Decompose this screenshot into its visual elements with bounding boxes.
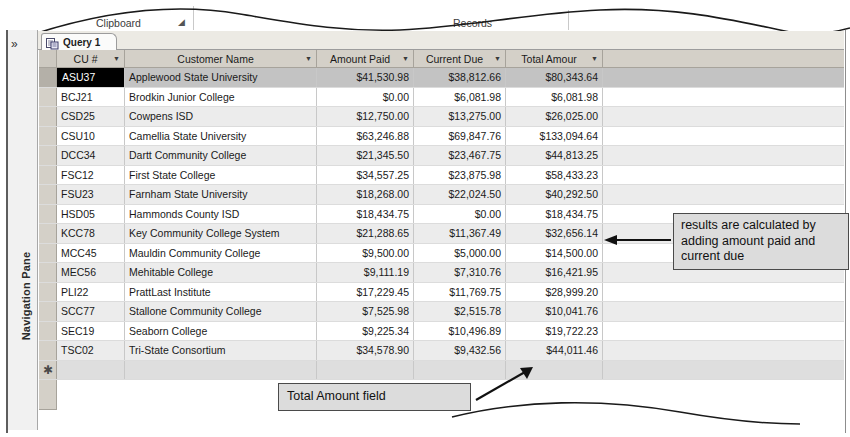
cell-due[interactable]: $69,847.76 — [414, 127, 506, 146]
cell-due[interactable]: $23,467.75 — [414, 146, 506, 165]
cell-due[interactable]: $6,081.98 — [414, 88, 506, 107]
cell-name[interactable]: Seaborn College — [125, 322, 317, 341]
cell-paid[interactable]: $34,578.90 — [317, 341, 414, 360]
cell-due[interactable]: $38,812.66 — [414, 68, 506, 87]
cell-name[interactable]: Tri-State Consortium — [125, 341, 317, 360]
row-selector[interactable] — [39, 68, 57, 87]
table-row[interactable]: PLI22PrattLast Institute$17,229.45$11,76… — [39, 283, 844, 303]
cell-paid[interactable]: $41,530.98 — [317, 68, 414, 87]
cell-cu[interactable]: FSC12 — [57, 166, 125, 185]
cell-total[interactable]: $10,041.76 — [506, 302, 603, 321]
row-selector[interactable] — [39, 224, 57, 243]
row-selector[interactable] — [39, 263, 57, 282]
cell-total[interactable]: $14,500.00 — [506, 244, 603, 263]
cell-paid[interactable]: $9,500.00 — [317, 244, 414, 263]
chevron-down-icon[interactable]: ▼ — [591, 55, 598, 62]
row-selector[interactable] — [39, 341, 57, 360]
row-selector[interactable] — [39, 127, 57, 146]
dialog-launcher-icon[interactable]: ◢ — [178, 18, 185, 27]
tab-query1[interactable]: Query 1 — [41, 33, 117, 50]
row-selector[interactable] — [39, 205, 57, 224]
cell-total[interactable]: $26,025.00 — [506, 107, 603, 126]
chevron-down-icon[interactable]: ▼ — [494, 55, 501, 62]
select-all-box[interactable] — [39, 50, 57, 67]
cell-paid[interactable]: $18,268.00 — [317, 185, 414, 204]
new-record-row[interactable]: ✱ — [39, 361, 844, 381]
column-header-cu[interactable]: CU #▼ — [57, 50, 125, 67]
cell-paid[interactable]: $9,111.19 — [317, 263, 414, 282]
row-selector[interactable] — [39, 107, 57, 126]
cell-due[interactable]: $7,310.76 — [414, 263, 506, 282]
new-record-cell-name[interactable] — [125, 361, 317, 380]
cell-total[interactable]: $58,433.23 — [506, 166, 603, 185]
cell-cu[interactable]: ASU37 — [57, 68, 125, 87]
cell-total[interactable]: $44,011.46 — [506, 341, 603, 360]
cell-paid[interactable]: $21,288.65 — [317, 224, 414, 243]
row-selector[interactable] — [39, 302, 57, 321]
cell-due[interactable]: $11,769.75 — [414, 283, 506, 302]
cell-total[interactable]: $80,343.64 — [506, 68, 603, 87]
new-record-cell-total[interactable] — [506, 361, 603, 380]
cell-cu[interactable]: FSU23 — [57, 185, 125, 204]
cell-due[interactable]: $22,024.50 — [414, 185, 506, 204]
cell-cu[interactable]: BCJ21 — [57, 88, 125, 107]
table-row[interactable]: BCJ21Brodkin Junior College$0.00$6,081.9… — [39, 88, 844, 108]
row-selector[interactable] — [39, 185, 57, 204]
cell-paid[interactable]: $63,246.88 — [317, 127, 414, 146]
cell-cu[interactable]: SEC19 — [57, 322, 125, 341]
cell-total[interactable]: $6,081.98 — [506, 88, 603, 107]
cell-due[interactable]: $10,496.89 — [414, 322, 506, 341]
new-record-cell-due[interactable] — [414, 361, 506, 380]
cell-name[interactable]: Applewood State University — [125, 68, 317, 87]
chevron-down-icon[interactable]: ▼ — [113, 55, 120, 62]
chevron-down-icon[interactable]: ▼ — [402, 55, 409, 62]
row-selector[interactable] — [39, 283, 57, 302]
cell-cu[interactable]: SCC77 — [57, 302, 125, 321]
cell-name[interactable]: Cowpens ISD — [125, 107, 317, 126]
cell-cu[interactable]: HSD05 — [57, 205, 125, 224]
cell-name[interactable]: Farnham State University — [125, 185, 317, 204]
cell-name[interactable]: Camellia State University — [125, 127, 317, 146]
navigation-pane-expand-icon[interactable]: » — [11, 38, 18, 50]
cell-paid[interactable]: $12,750.00 — [317, 107, 414, 126]
new-record-cell-paid[interactable] — [317, 361, 414, 380]
cell-paid[interactable]: $7,525.98 — [317, 302, 414, 321]
cell-total[interactable]: $18,434.75 — [506, 205, 603, 224]
cell-name[interactable]: Mehitable College — [125, 263, 317, 282]
cell-cu[interactable]: CSD25 — [57, 107, 125, 126]
table-row[interactable]: SEC19Seaborn College$9,225.34$10,496.89$… — [39, 322, 844, 342]
cell-name[interactable]: PrattLast Institute — [125, 283, 317, 302]
column-header-due[interactable]: Current Due▼ — [414, 50, 506, 67]
table-row[interactable]: FSU23Farnham State University$18,268.00$… — [39, 185, 844, 205]
cell-due[interactable]: $5,000.00 — [414, 244, 506, 263]
cell-due[interactable]: $23,875.98 — [414, 166, 506, 185]
table-row[interactable]: ASU37Applewood State University$41,530.9… — [39, 68, 844, 88]
cell-name[interactable]: Mauldin Community College — [125, 244, 317, 263]
cell-paid[interactable]: $0.00 — [317, 88, 414, 107]
column-header-total[interactable]: Total Amour▼ — [506, 50, 603, 67]
cell-cu[interactable]: MEC56 — [57, 263, 125, 282]
cell-paid[interactable]: $18,434.75 — [317, 205, 414, 224]
cell-total[interactable]: $40,292.50 — [506, 185, 603, 204]
cell-due[interactable]: $11,367.49 — [414, 224, 506, 243]
cell-name[interactable]: Stallone Community College — [125, 302, 317, 321]
row-selector[interactable] — [39, 166, 57, 185]
cell-name[interactable]: First State College — [125, 166, 317, 185]
row-selector[interactable] — [39, 322, 57, 341]
row-selector[interactable] — [39, 88, 57, 107]
column-header-paid[interactable]: Amount Paid▼ — [317, 50, 414, 67]
cell-paid[interactable]: $21,345.50 — [317, 146, 414, 165]
cell-name[interactable]: Hammonds County ISD — [125, 205, 317, 224]
table-row[interactable]: CSD25Cowpens ISD$12,750.00$13,275.00$26,… — [39, 107, 844, 127]
new-record-selector[interactable]: ✱ — [39, 361, 57, 380]
table-row[interactable]: DCC34Dartt Community College$21,345.50$2… — [39, 146, 844, 166]
cell-due[interactable]: $0.00 — [414, 205, 506, 224]
table-row[interactable]: FSC12First State College$34,557.25$23,87… — [39, 166, 844, 186]
table-row[interactable]: TSC02Tri-State Consortium$34,578.90$9,43… — [39, 341, 844, 361]
cell-cu[interactable]: CSU10 — [57, 127, 125, 146]
table-row[interactable]: CSU10Camellia State University$63,246.88… — [39, 127, 844, 147]
cell-name[interactable]: Key Community College System — [125, 224, 317, 243]
cell-due[interactable]: $2,515.78 — [414, 302, 506, 321]
chevron-down-icon[interactable]: ▼ — [305, 55, 312, 62]
cell-due[interactable]: $13,275.00 — [414, 107, 506, 126]
